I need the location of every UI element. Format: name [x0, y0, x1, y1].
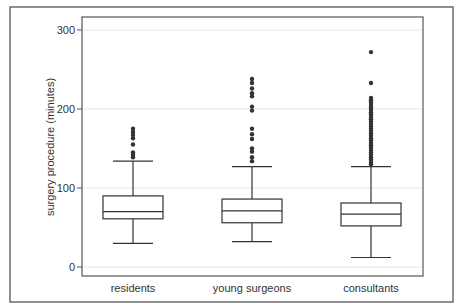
outlier-point [131, 127, 135, 131]
outlier-point [250, 155, 254, 159]
y-tick-label: 100 [57, 182, 75, 194]
x-axis: residentsyoung surgeonsconsultants [111, 282, 400, 294]
x-category-label: residents [111, 282, 156, 294]
outlier-point [369, 81, 373, 85]
outlier-point [250, 86, 254, 90]
outlier-point [250, 127, 254, 131]
y-axis-label: surgery procedure (minutes) [44, 78, 56, 216]
outlier-point [250, 137, 254, 141]
x-category-label: consultants [343, 282, 399, 294]
box-plot-chart: 0100200300 residentsyoung surgeonsconsul… [0, 0, 457, 308]
outlier-point [250, 146, 254, 150]
x-category-label: young surgeons [213, 282, 292, 294]
outlier-point [250, 159, 254, 163]
outlier-point [250, 132, 254, 136]
y-tick-label: 300 [57, 24, 75, 36]
outlier-point [369, 96, 373, 100]
outlier-point [250, 77, 254, 81]
outlier-point [250, 91, 254, 95]
outlier-point [250, 81, 254, 85]
y-tick-label: 200 [57, 103, 75, 115]
outlier-point [250, 108, 254, 112]
iqr-box [103, 196, 163, 219]
outlier-point [250, 104, 254, 108]
outlier-point [131, 150, 135, 154]
outlier-point [369, 50, 373, 54]
y-tick-label: 0 [69, 261, 75, 273]
outlier-point [131, 142, 135, 146]
